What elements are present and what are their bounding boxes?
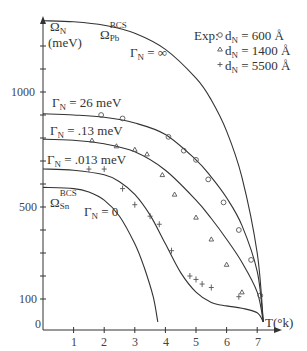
circle-marker-icon [221,200,226,205]
plus-marker-icon [194,276,199,282]
plus-marker-icon [157,221,162,227]
legend-plus-icon [218,62,223,67]
circle-marker-icon [249,258,254,263]
triangle-marker-icon [145,152,150,156]
gamma-symbol: Γ [50,123,58,138]
pb-script: BCSPb [110,29,138,39]
legend-value: = 600 Å [238,28,284,43]
y-tick-100: 100 [19,293,37,305]
x-tick-5: 5 [193,336,199,348]
plus-marker-icon [187,273,192,279]
omega-symbol: Ω [50,19,60,34]
y-tick-1000: 1000 [11,86,35,98]
sn-superscript: BCS [60,189,77,198]
triangle-marker-icon [172,192,177,196]
x-tick-4: 4 [163,336,169,348]
gamma-value: = ∞ [144,45,167,60]
gamma-0-label: ΓN = 0 [84,205,118,221]
triangle-marker-icon [209,237,214,241]
circle-marker-icon [206,177,211,182]
x-tick-3: 3 [132,336,138,348]
legend-entry-5500: dN = 5500 Å [225,59,290,75]
gamma-013-label: ΓN = .13 meV [50,124,123,140]
gamma-symbol: Γ [130,45,138,60]
triangle-marker-icon [194,215,199,219]
y-axis-label: ΩN [50,20,66,36]
pb-bcs-label: ΩBCSPb [100,28,138,41]
gamma-symbol: Γ [52,95,60,110]
x-tick-2: 2 [101,336,107,348]
sn-script: BCSSn [60,197,84,207]
x-axis-label: T(°k) [265,316,293,329]
pb-omega: Ω [100,27,110,42]
pb-superscript: BCS [110,21,127,30]
pb-subscript: Pb [110,34,120,43]
gamma-symbol: Γ [84,204,92,219]
gamma-symbol: Γ [47,152,55,167]
triangle-marker-icon [133,147,138,151]
triangle-marker-icon [240,290,245,294]
gamma-value: = 0 [98,204,118,219]
sn-omega: Ω [50,195,60,210]
gamma-value: = .013 meV [61,152,126,167]
y-axis-arrow [40,16,46,24]
gamma-inf-label: ΓN = ∞ [130,46,167,62]
gamma-0013-label: ΓN = .013 meV [47,153,126,169]
circle-marker-icon [236,228,241,233]
plus-marker-icon [209,285,214,291]
y-tick-500: 500 [19,201,37,213]
triangle-marker-icon [160,173,165,177]
legend-prefix: Exp: [194,29,219,42]
x-tick-1: 1 [71,336,77,348]
legend-value: = 1400 Å [238,43,290,58]
y-axis-unit: (meV) [48,36,82,49]
sn-bcs-label: ΩBCSSn [50,196,84,209]
origin-label: 0 [35,318,41,330]
gamma-value: = .13 meV [64,123,123,138]
x-tick-7: 7 [255,336,261,348]
plus-marker-icon [200,281,205,287]
gamma-26-label: ΓN = 26 meV [52,96,121,112]
legend-value: = 5500 Å [238,58,290,73]
theory-curve [43,114,263,322]
triangle-marker-icon [224,262,229,266]
plus-marker-icon [236,294,241,300]
gamma-value: = 26 meV [66,95,121,110]
plus-marker-icon [132,202,137,208]
legend-triangle-icon [218,47,223,51]
x-tick-6: 6 [224,336,230,348]
plus-marker-icon [120,186,125,192]
sn-subscript: Sn [60,202,70,211]
